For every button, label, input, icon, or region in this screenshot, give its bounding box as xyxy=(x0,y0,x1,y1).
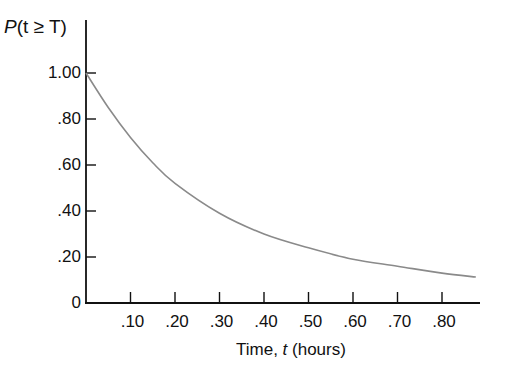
plot-area xyxy=(0,0,517,382)
axes xyxy=(85,20,480,304)
survival-curve xyxy=(86,73,476,277)
